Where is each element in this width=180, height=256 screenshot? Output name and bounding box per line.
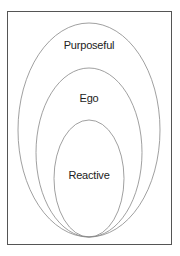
ellipse-purposeful: [18, 23, 160, 237]
label-ego: Ego: [0, 92, 178, 104]
label-purposeful: Purposeful: [0, 39, 178, 51]
label-reactive: Reactive: [0, 169, 178, 181]
